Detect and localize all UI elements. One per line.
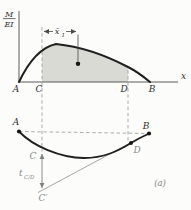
deviation-label-main: t	[19, 168, 23, 178]
beam-deflection-figure: M EI x x̄ 1 A C D B	[0, 0, 191, 210]
point-dot-d	[129, 141, 133, 145]
abscissa-label: x	[181, 71, 186, 81]
figure-caption: (a)	[154, 178, 166, 188]
point-dot-b	[147, 131, 151, 135]
centroid-distance-label: x̄	[55, 27, 60, 36]
dashed-chord-ab	[19, 132, 149, 134]
label-b-bottom: B	[142, 121, 150, 131]
centroid-dot	[76, 62, 80, 66]
deviation-label-subscript: C/D	[24, 174, 35, 180]
label-d-top: D	[119, 84, 127, 94]
label-d-bottom: D	[132, 145, 140, 155]
label-a-top: A	[12, 84, 20, 94]
centroid-distance-subscript: 1	[62, 32, 66, 38]
label-b-top: B	[148, 84, 156, 94]
elastic-curve-diagram: A B D C C′ t C/D (a)	[12, 117, 166, 203]
ordinate-label-numerator: M	[4, 10, 14, 19]
ordinate-label-denominator: EI	[4, 20, 15, 29]
moment-diagram: M EI x x̄ 1 A C D B	[3, 10, 186, 152]
label-c-bottom: C	[30, 151, 37, 161]
label-c-prime: C′	[39, 193, 48, 203]
point-dot-a	[17, 129, 21, 133]
figure-page: M EI x x̄ 1 A C D B	[0, 0, 191, 210]
label-a-bottom: A	[12, 117, 20, 127]
elastic-curve	[19, 132, 149, 159]
label-c-top: C	[36, 84, 43, 94]
